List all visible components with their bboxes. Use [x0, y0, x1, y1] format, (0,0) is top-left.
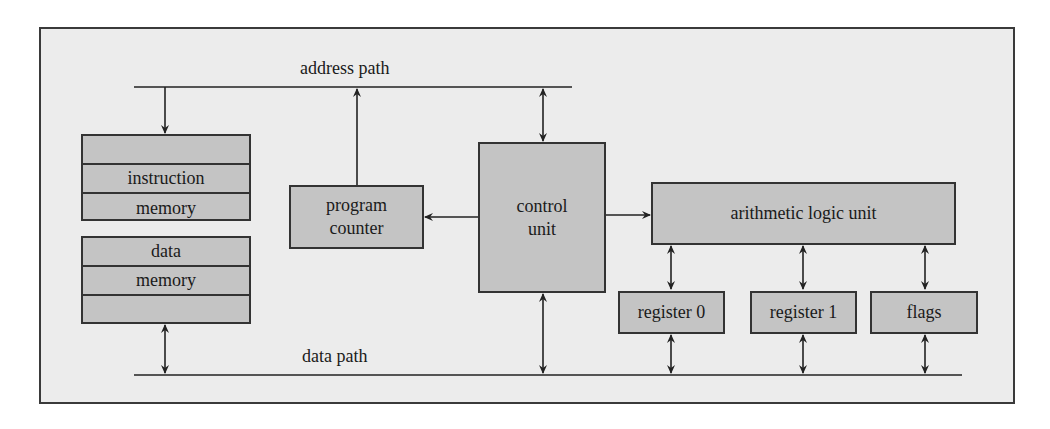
instruction-memory-row: memory — [83, 194, 249, 223]
flags-block: flags — [870, 291, 978, 334]
control-unit-label-line2: unit — [528, 218, 556, 241]
data-path-label: data path — [302, 346, 367, 367]
data-memory-row — [83, 296, 249, 325]
alu-block: arithmetic logic unit — [651, 182, 956, 245]
address-path-label: address path — [300, 58, 389, 79]
register-1-block: register 1 — [750, 291, 857, 334]
instruction-memory-row: instruction — [83, 165, 249, 194]
control-unit-block: control unit — [478, 142, 606, 293]
data-memory-row: data — [83, 238, 249, 267]
control-unit-label-line1: control — [517, 195, 568, 218]
register-0-label: register 0 — [638, 301, 705, 324]
instruction-memory-block: instruction memory — [81, 134, 251, 221]
register-0-block: register 0 — [618, 291, 725, 334]
alu-label: arithmetic logic unit — [731, 202, 877, 225]
data-memory-row: memory — [83, 267, 249, 296]
flags-label: flags — [907, 301, 942, 324]
instruction-memory-row — [83, 136, 249, 165]
program-counter-label-line2: counter — [330, 217, 384, 240]
program-counter-block: program counter — [289, 185, 424, 249]
register-1-label: register 1 — [770, 301, 837, 324]
data-memory-block: data memory — [81, 236, 251, 324]
program-counter-label-line1: program — [326, 194, 387, 217]
